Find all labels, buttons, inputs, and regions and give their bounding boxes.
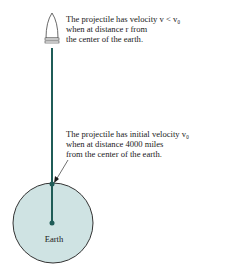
projectile-caption-line2: when at distance r from bbox=[66, 24, 180, 34]
leader-line bbox=[56, 160, 68, 180]
projectile-caption: The projectile has velocity v < v₀ when … bbox=[66, 14, 180, 44]
earth-center-dot bbox=[50, 221, 55, 226]
launch-point-dot bbox=[50, 182, 55, 187]
projectile-caption-line3: the center of the earth. bbox=[66, 34, 180, 44]
launch-caption-line1: The projectile has initial velocity v₀ bbox=[66, 129, 189, 139]
arrowhead-icon bbox=[54, 176, 59, 183]
projectile-icon bbox=[45, 13, 59, 43]
launch-caption-line3: from the center of the earth. bbox=[66, 149, 189, 159]
launch-caption: The projectile has initial velocity v₀ w… bbox=[66, 129, 189, 159]
launch-caption-line2: when at distance 4000 miles bbox=[66, 139, 189, 149]
projectile-caption-line1: The projectile has velocity v < v₀ bbox=[66, 14, 180, 24]
earth-label: Earth bbox=[37, 234, 71, 244]
